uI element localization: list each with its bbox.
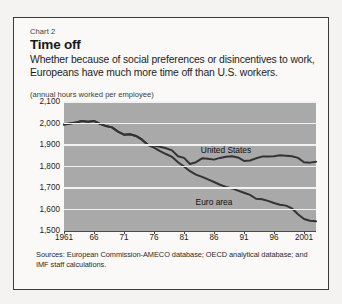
x-axis-tick-label: 76 <box>149 233 158 242</box>
gridline <box>64 166 316 167</box>
chart-title: Time off <box>30 37 81 52</box>
figure-page: Chart 2 Time off Whether because of soci… <box>0 0 342 304</box>
x-axis-tick-label: 66 <box>89 233 98 242</box>
x-axis-tick-label: 86 <box>209 233 218 242</box>
gridline <box>64 187 316 188</box>
x-axis-tick-label: 2001 <box>295 233 313 242</box>
chart-kicker: Chart 2 <box>30 27 55 36</box>
series-label-united-states: United States <box>201 145 251 155</box>
x-axis-tick-label: 71 <box>119 233 128 242</box>
gridline <box>64 101 316 102</box>
series-label-euro-area: Euro area <box>196 197 233 207</box>
gridline <box>64 209 316 210</box>
gridline <box>64 144 316 145</box>
plot-wrapper: 1,5001,6001,7001,8001,9002,0002,10019616… <box>30 102 316 242</box>
y-axis-tick-label: 1,800 <box>30 162 64 171</box>
y-axis-tick-label: 1,900 <box>30 140 64 149</box>
y-axis-tick-label: 2,000 <box>30 119 64 128</box>
x-axis-tick-label: 81 <box>179 233 188 242</box>
y-axis-tick-label: 1,600 <box>30 205 64 214</box>
series-line-united-states <box>64 121 316 164</box>
chart-subtitle: Whether because of social preferences or… <box>30 54 318 79</box>
sources-note: Sources: European Commission-AMECO datab… <box>36 250 316 269</box>
gridline <box>64 123 316 124</box>
x-axis-tick-label: 1961 <box>55 233 73 242</box>
x-axis-tick-label: 96 <box>269 233 278 242</box>
y-axis-tick-label: 1,700 <box>30 183 64 192</box>
series-line-euro-area <box>64 121 316 221</box>
plot-area <box>64 102 316 231</box>
x-axis-tick-label: 91 <box>239 233 248 242</box>
chart-frame: Chart 2 Time off Whether because of soci… <box>13 17 329 290</box>
y-axis-tick-label: 2,100 <box>30 97 64 106</box>
